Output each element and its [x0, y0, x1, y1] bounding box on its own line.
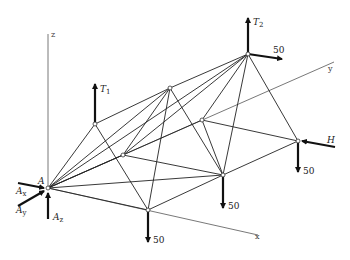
label-D-load: 50: [273, 45, 285, 55]
label-T1: T1: [100, 84, 110, 96]
z-axis-label: z: [51, 30, 55, 39]
joint-F: [200, 118, 204, 122]
truss-members: [48, 54, 298, 210]
joint-G: [146, 208, 150, 212]
truss-joints: [46, 52, 300, 212]
joint-D: [246, 52, 250, 56]
label-H: H: [326, 135, 335, 145]
coordinate-axes: z x y: [48, 30, 334, 241]
label-Ax: Ax: [15, 186, 27, 198]
force-labels: A Ax Ay Az T1 T2 H 50 50 50 50: [15, 17, 335, 245]
label-A: A: [37, 176, 45, 186]
joint-L: [296, 139, 300, 143]
label-Az: Az: [52, 212, 64, 224]
joint-A: [46, 186, 50, 190]
x-axis-label: x: [255, 232, 260, 241]
label-Ay: Ay: [15, 205, 27, 217]
y-axis-label: y: [327, 64, 333, 73]
joint-C: [168, 86, 172, 90]
joint-E: [121, 153, 125, 157]
label-G-load: 50: [153, 235, 165, 245]
space-truss-diagram: z x y: [0, 0, 350, 260]
applied-forces: [18, 18, 335, 242]
joint-B: [93, 122, 97, 126]
label-T2: T2: [253, 17, 263, 29]
label-K-load: 50: [228, 201, 240, 211]
joint-K: [221, 173, 225, 177]
label-L-load: 50: [303, 166, 315, 176]
